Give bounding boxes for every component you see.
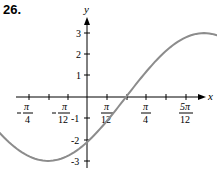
svg-text:π: π <box>104 101 110 112</box>
y-tick-1: 1 <box>76 70 81 81</box>
y-tick-neg1: -1 <box>71 113 79 124</box>
y-tick-neg2: -2 <box>71 135 79 146</box>
svg-text:π: π <box>62 101 68 112</box>
svg-text:4: 4 <box>25 114 30 125</box>
x-tick-pi-4: π 4 <box>141 101 151 125</box>
svg-text:5π: 5π <box>180 101 191 112</box>
y-axis-label: y <box>83 3 89 15</box>
svg-text:π: π <box>143 101 149 112</box>
y-tick-neg3: -3 <box>71 156 79 167</box>
x-axis-arrow-icon <box>198 94 206 100</box>
svg-text:4: 4 <box>143 114 148 125</box>
svg-text:12: 12 <box>180 114 190 125</box>
svg-text:12: 12 <box>58 114 68 125</box>
y-tick-2: 2 <box>76 49 81 60</box>
x-tick-neg-pi-12: π 12 <box>52 101 70 125</box>
sine-graph: x y 3 2 1 -1 -2 -3 π 4 π 12 <box>0 0 217 170</box>
y-tick-3: 3 <box>76 28 81 39</box>
x-tick-5pi-12: 5π 12 <box>179 101 193 125</box>
y-axis-arrow-icon <box>84 17 90 25</box>
x-axis-label: x <box>207 90 213 102</box>
x-tick-neg-pi-4: π 4 <box>17 101 33 125</box>
svg-text:π: π <box>24 101 30 112</box>
